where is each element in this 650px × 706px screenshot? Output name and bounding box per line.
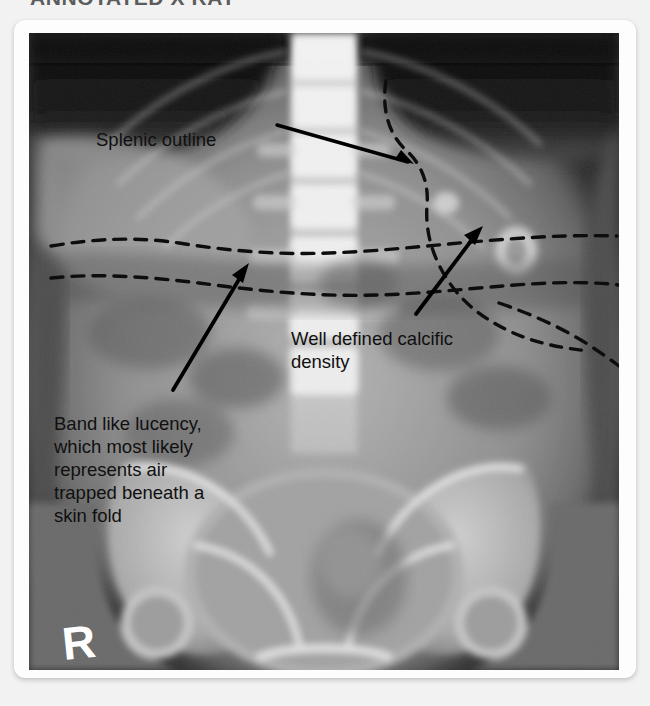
page-root: ANNOTATED X RAY: [0, 0, 650, 706]
image-card: R: [14, 20, 636, 678]
annotation-label-band-lucency: Band like lucency, which most likely rep…: [54, 412, 204, 527]
svg-text:R: R: [60, 615, 98, 670]
annotation-label-splenic-outline: Splenic outline: [96, 128, 216, 151]
page-title: ANNOTATED X RAY: [30, 0, 236, 10]
page-title-clip: ANNOTATED X RAY: [0, 0, 650, 14]
annotation-label-calcific-density: Well defined calcific density: [291, 327, 453, 373]
